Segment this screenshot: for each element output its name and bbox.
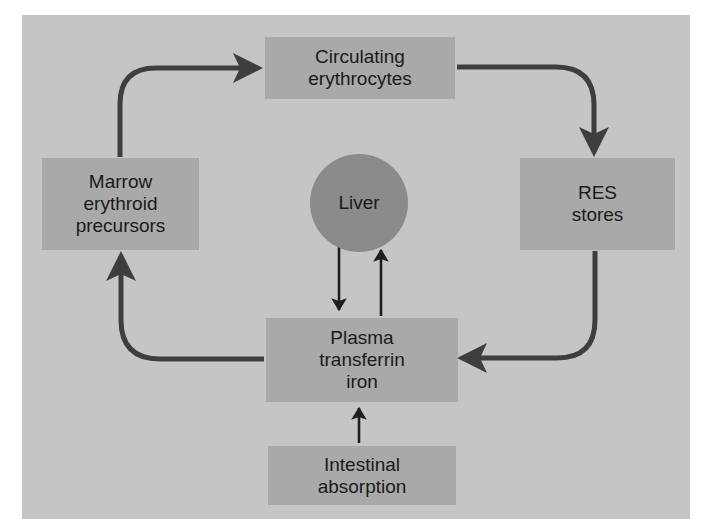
node-marrow-erythroid-precursors: Marrow erythroid precursors	[42, 158, 199, 250]
node-liver: Liver	[310, 154, 408, 252]
arrow-plasma-to-marrow	[121, 256, 264, 359]
node-label: Intestinal absorption	[318, 454, 407, 498]
node-label: Circulating erythrocytes	[308, 46, 411, 90]
node-circulating-erythrocytes: Circulating erythrocytes	[265, 37, 455, 99]
node-label: RES stores	[572, 182, 624, 226]
node-intestinal-absorption: Intestinal absorption	[268, 446, 456, 505]
arrow-res-to-plasma	[462, 251, 595, 358]
node-res-stores: RES stores	[520, 158, 675, 250]
node-label: Plasma transferrin iron	[319, 327, 405, 393]
arrow-circulating-to-res	[457, 67, 594, 152]
node-plasma-transferrin-iron: Plasma transferrin iron	[266, 318, 458, 402]
arrow-marrow-to-circulating	[120, 68, 258, 157]
node-label: Marrow erythroid precursors	[76, 171, 166, 237]
node-label: Liver	[338, 192, 379, 214]
